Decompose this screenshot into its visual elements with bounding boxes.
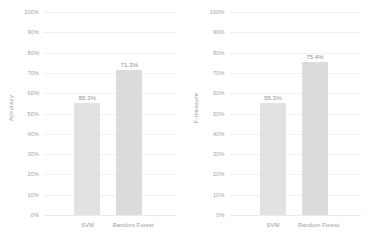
bar-slot: 75.4% (298, 12, 332, 215)
y-tick-label: 10% (213, 192, 225, 198)
gridline-baseline: 0% (44, 215, 176, 216)
y-tick-label: 100% (210, 9, 225, 15)
y-tick-label: 60% (213, 90, 225, 96)
chart-panel-accuracy: Accuracy 100% 90% 80% 70% 60% 50% 40% 30… (0, 0, 186, 249)
x-tick-label-svm: SVM (256, 222, 290, 228)
bar-svm-fmeasure[interactable] (260, 103, 286, 215)
bar-svm-accuracy[interactable] (74, 103, 100, 215)
x-tick-label-svm: SVM (70, 222, 104, 228)
y-axis-title-label: Accuracy (8, 94, 14, 120)
y-tick-label: 30% (213, 151, 225, 157)
y-tick-label: 20% (28, 171, 40, 177)
y-tick-label: 90% (213, 29, 225, 35)
plot-area-accuracy: 100% 90% 80% 70% 60% 50% 40% 30% 20% 10%… (44, 12, 176, 215)
bar-group-accuracy: 55.3% 71.3% (44, 12, 176, 215)
y-tick-label: 30% (28, 151, 40, 157)
bar-value-label: 75.4% (298, 54, 332, 60)
y-tick-label: 80% (213, 50, 225, 56)
y-tick-label: 50% (213, 111, 225, 117)
bar-random-forest-fmeasure[interactable] (302, 62, 328, 215)
bar-value-label: 71.3% (112, 62, 146, 68)
y-tick-label: 10% (28, 192, 40, 198)
y-axis-title-accuracy: Accuracy (4, 0, 18, 215)
y-tick-label: 70% (213, 70, 225, 76)
y-axis-title-label: F-measure (194, 92, 200, 123)
x-tick-label-random-forest: Random Forest (298, 222, 332, 228)
y-tick-label: 40% (213, 131, 225, 137)
bar-slot: 55.3% (256, 12, 290, 215)
y-tick-label: 70% (28, 70, 40, 76)
y-tick-label: 80% (28, 50, 40, 56)
chart-panel-fmeasure: F-measure 100% 90% 80% 70% 60% 50% 40% 3… (186, 0, 371, 249)
y-tick-label: 40% (28, 131, 40, 137)
y-tick-label: 60% (28, 90, 40, 96)
x-axis-labels-accuracy: SVM Random Forest (44, 222, 176, 236)
bar-slot: 71.3% (112, 12, 146, 215)
y-tick-label: 50% (28, 111, 40, 117)
bar-value-label: 55.3% (256, 95, 290, 101)
x-tick-label-random-forest: Random Forest (112, 222, 146, 228)
y-tick-label: 90% (28, 29, 40, 35)
bar-random-forest-accuracy[interactable] (116, 70, 142, 215)
y-axis-title-fmeasure: F-measure (190, 0, 204, 215)
bar-chart-figure: Accuracy 100% 90% 80% 70% 60% 50% 40% 30… (0, 0, 371, 249)
y-tick-label: 0% (31, 212, 39, 218)
y-tick-label: 0% (216, 212, 224, 218)
plot-area-fmeasure: 100% 90% 80% 70% 60% 50% 40% 30% 20% 10%… (230, 12, 362, 215)
y-tick-label: 100% (24, 9, 39, 15)
bar-group-fmeasure: 55.3% 75.4% (230, 12, 362, 215)
bar-value-label: 55.3% (70, 95, 104, 101)
bar-slot: 55.3% (70, 12, 104, 215)
x-axis-labels-fmeasure: SVM Random Forest (230, 222, 362, 236)
gridline-baseline: 0% (230, 215, 362, 216)
y-tick-label: 20% (213, 171, 225, 177)
